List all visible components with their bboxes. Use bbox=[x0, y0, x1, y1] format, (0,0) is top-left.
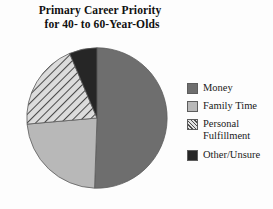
pie-chart bbox=[26, 47, 168, 189]
personal-fulfillment-swatch-icon bbox=[187, 119, 198, 130]
pie-slice-family-time bbox=[27, 118, 97, 188]
family-time-swatch-icon bbox=[187, 101, 198, 112]
chart-title-line-1: Primary Career Priority bbox=[39, 4, 162, 16]
legend-label-other-unsure: Other/Unsure bbox=[203, 149, 260, 161]
chart-legend: Money Family Time Personal Fulfillment O… bbox=[187, 82, 273, 167]
legend-item-money: Money bbox=[187, 82, 273, 94]
money-swatch-icon bbox=[187, 83, 198, 94]
legend-item-other-unsure: Other/Unsure bbox=[187, 149, 273, 161]
legend-label-money: Money bbox=[203, 82, 233, 94]
chart-title: Primary Career Priority for 40- to 60-Ye… bbox=[0, 3, 200, 31]
legend-label-family-time: Family Time bbox=[203, 100, 257, 112]
legend-item-personal-fulfillment: Personal Fulfillment bbox=[187, 118, 273, 142]
pie-slice-money bbox=[95, 48, 168, 188]
chart-screenshot: Primary Career Priority for 40- to 60-Ye… bbox=[0, 0, 273, 209]
pie-slice-group bbox=[27, 48, 167, 188]
legend-label-personal-fulfillment: Personal Fulfillment bbox=[203, 118, 250, 142]
legend-item-family-time: Family Time bbox=[187, 100, 273, 112]
pie-chart-svg bbox=[26, 47, 168, 189]
chart-title-line-2: for 40- to 60-Year-Olds bbox=[0, 17, 200, 31]
other-unsure-swatch-icon bbox=[187, 150, 198, 161]
